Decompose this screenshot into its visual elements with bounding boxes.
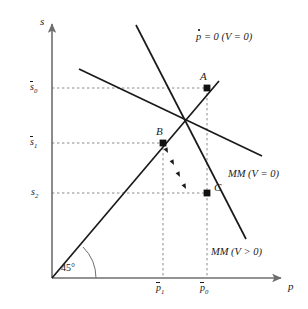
x-tick-sub-p1: 1 — [161, 288, 164, 295]
curve-label-pdot-zero: p = 0 (V = 0) — [196, 32, 252, 43]
adjustment-arrow — [164, 147, 170, 154]
adjustment-arrow — [182, 183, 188, 190]
point-marker-b — [160, 140, 167, 147]
point-label-b: B — [156, 126, 163, 137]
x-tick-label-p1: p1 — [156, 283, 164, 293]
point-marker-a — [204, 85, 211, 92]
adjustment-arrows — [164, 147, 188, 190]
x-tick-label-p0: p0 — [200, 283, 208, 293]
y-tick-sub-s2: 2 — [35, 192, 38, 199]
y-tick-label-s2: s2 — [31, 187, 38, 197]
pdot-symbol: p — [196, 32, 201, 43]
x-tick-sub-p0: 0 — [205, 288, 208, 295]
mm-v-positive-line — [136, 25, 246, 239]
y-tick-sub-s0: 0 — [34, 87, 37, 94]
y-tick-label-s0: s0 — [30, 82, 37, 92]
y-tick-label-s1: s1 — [30, 137, 37, 147]
point-marker-c — [204, 190, 211, 197]
adjustment-arrow — [170, 159, 176, 166]
y-tick-sub-s1: 1 — [34, 142, 37, 149]
curve-label-mm-v-zero: MM (V = 0) — [228, 169, 279, 180]
x-axis-label: p — [288, 281, 294, 292]
angle-label-45: 45° — [61, 263, 75, 273]
pdot-zero-text: = 0 (V = 0) — [204, 31, 252, 42]
point-label-c: C — [214, 182, 221, 193]
curve-label-mm-v-positive: MM (V > 0) — [211, 247, 262, 258]
phase-diagram-figure: s p s0 s1 s2 p1 p0 A B C p = 0 (V = 0) M… — [0, 0, 308, 309]
adjustment-arrow — [176, 171, 182, 178]
pdot-zero-line — [52, 81, 219, 278]
angle-arc — [83, 247, 96, 278]
y-axis-label: s — [40, 16, 44, 27]
mm-v-zero-line — [79, 69, 262, 156]
point-label-a: A — [200, 71, 207, 82]
plot-canvas — [0, 0, 308, 309]
